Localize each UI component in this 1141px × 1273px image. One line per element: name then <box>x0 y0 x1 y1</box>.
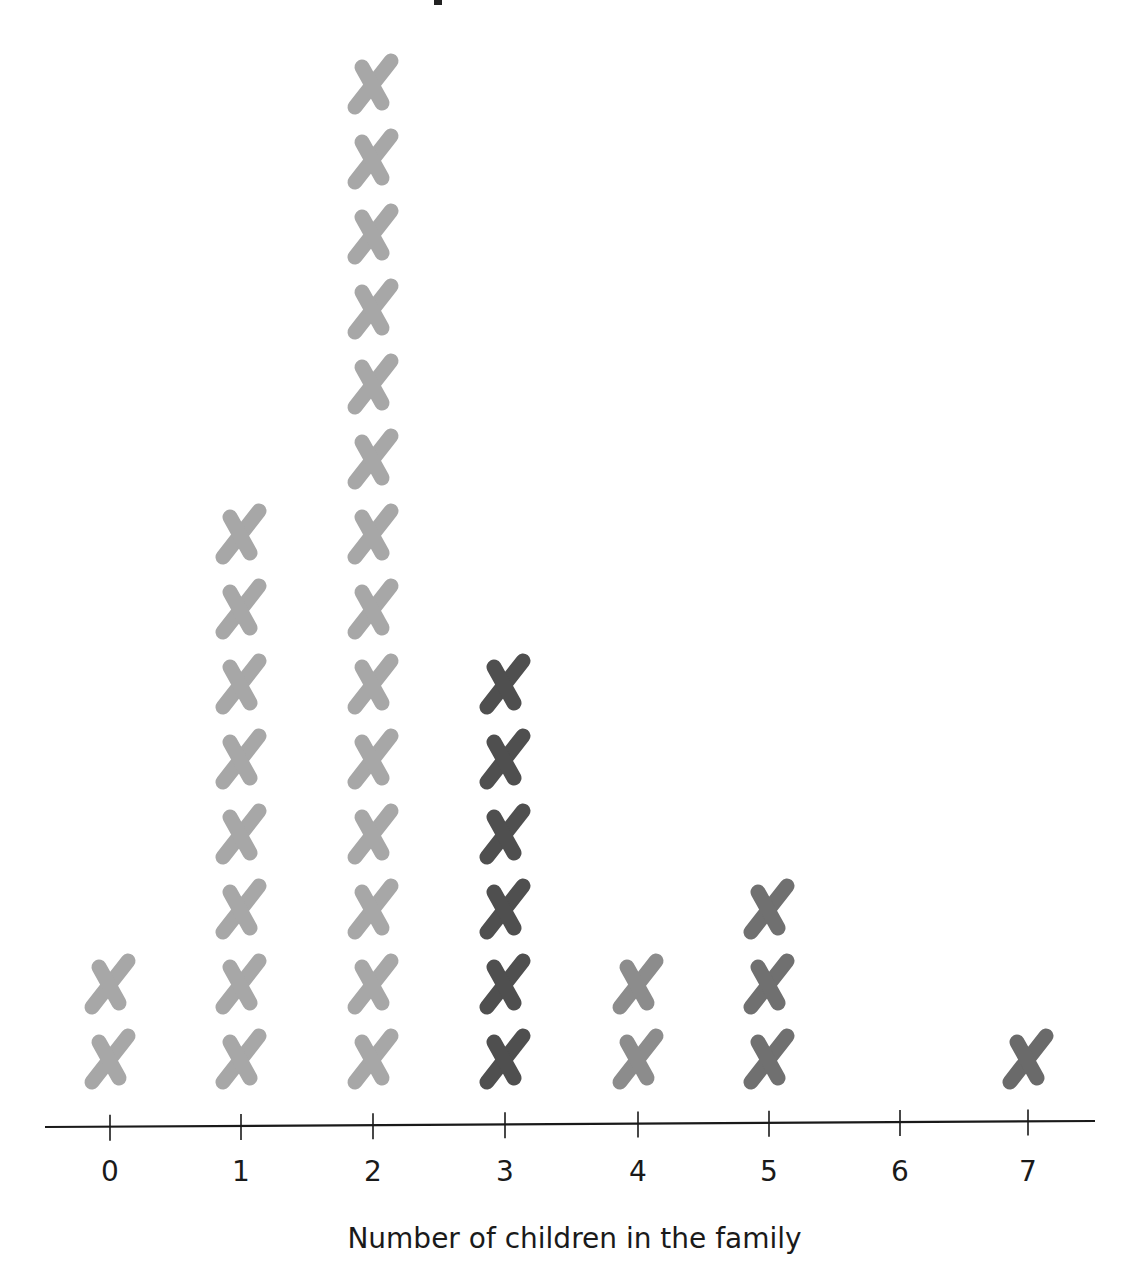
x-mark-icon <box>355 361 391 407</box>
tick-label: 0 <box>90 1155 130 1188</box>
x-mark-icon <box>355 736 391 782</box>
x-mark-icon <box>355 1036 391 1082</box>
tick-label: 7 <box>1008 1155 1048 1188</box>
x-mark-icon <box>223 736 259 782</box>
x-mark-icon <box>92 1036 128 1082</box>
x-mark-icon <box>223 661 259 707</box>
title-fragment <box>434 0 442 5</box>
x-mark-icon <box>355 511 391 557</box>
x-mark-icon <box>487 886 523 932</box>
x-mark-icon <box>355 61 391 107</box>
x-mark-icon <box>487 811 523 857</box>
x-mark-icon <box>355 136 391 182</box>
tick-label: 1 <box>221 1155 261 1188</box>
x-axis-label: Number of children in the family <box>0 1222 1141 1255</box>
x-mark-icon <box>620 1036 656 1082</box>
x-mark-icon <box>355 436 391 482</box>
x-mark-icon <box>223 886 259 932</box>
x-mark-icon <box>620 961 656 1007</box>
x-mark-icon <box>487 661 523 707</box>
x-mark-icon <box>223 961 259 1007</box>
x-mark-icon <box>487 1036 523 1082</box>
x-mark-icon <box>355 886 391 932</box>
x-mark-icon <box>751 961 787 1007</box>
tick-label: 6 <box>880 1155 920 1188</box>
tick-label: 3 <box>485 1155 525 1188</box>
x-mark-icon <box>223 511 259 557</box>
x-mark-icon <box>355 811 391 857</box>
number-line-axis <box>45 1121 1095 1127</box>
x-mark-icon <box>223 811 259 857</box>
x-mark-icon <box>355 961 391 1007</box>
tick-label: 2 <box>353 1155 393 1188</box>
x-mark-icon <box>487 736 523 782</box>
x-mark-icon <box>355 586 391 632</box>
x-mark-icon <box>487 961 523 1007</box>
x-mark-icon <box>1010 1036 1046 1082</box>
x-mark-icon <box>355 211 391 257</box>
x-mark-icon <box>751 886 787 932</box>
dot-plot <box>0 0 1141 1273</box>
x-marks-layer <box>92 61 1046 1082</box>
tick-label: 4 <box>618 1155 658 1188</box>
tick-label: 5 <box>749 1155 789 1188</box>
x-mark-icon <box>223 586 259 632</box>
x-mark-icon <box>355 661 391 707</box>
x-mark-icon <box>223 1036 259 1082</box>
x-mark-icon <box>92 961 128 1007</box>
x-mark-icon <box>355 286 391 332</box>
x-mark-icon <box>751 1036 787 1082</box>
